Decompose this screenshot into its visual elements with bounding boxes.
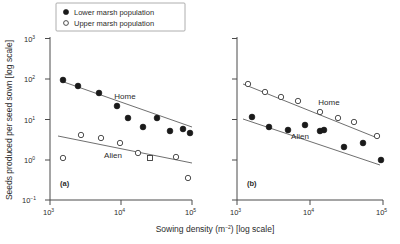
panel-a-xtick-10000: 104	[114, 207, 125, 217]
panel-b-label: (b)	[247, 179, 257, 188]
legend-marker-filled-circle-icon	[63, 9, 68, 14]
data-point	[245, 81, 250, 86]
data-point	[96, 90, 102, 96]
panel-b-xtick-100000: 105	[376, 207, 387, 217]
data-point	[60, 155, 65, 160]
data-point	[262, 89, 267, 94]
data-point	[78, 132, 83, 137]
data-point	[317, 109, 322, 114]
data-point	[335, 115, 340, 120]
panel-b-x-ticks	[237, 200, 383, 205]
data-point	[154, 115, 160, 121]
panel-a-home-label: Home	[114, 92, 136, 101]
legend-label-lower-marsh: Lower marsh population	[74, 8, 154, 17]
panel-a-ytick-1000: 103	[24, 34, 35, 44]
panel-a-ytick-100: 102	[24, 74, 35, 84]
legend-label-upper-marsh: Upper marsh population	[74, 19, 154, 28]
panel-b-home-series-points	[245, 81, 379, 138]
data-point	[295, 98, 300, 103]
figure-container: Lower marsh population Upper marsh popul…	[0, 0, 400, 244]
data-point	[60, 77, 66, 83]
data-point	[249, 114, 255, 120]
panel-a-ytick-0.1: 10−1	[22, 195, 36, 205]
panel-a-xtick-100000: 105	[185, 207, 196, 217]
x-axis-label-main: Sowing density (m	[156, 224, 225, 234]
panel-a-x-tick-labels: 103 104 105	[43, 207, 196, 217]
panel-b: 103 104 105	[230, 37, 387, 217]
data-point	[98, 135, 103, 140]
panel-b-home-label: Home	[318, 98, 340, 107]
data-point	[341, 144, 347, 150]
y-axis-label: Seeds produced per seed sown [log scale]	[4, 40, 14, 200]
y-axis-label-group: Seeds produced per seed sown [log scale]	[4, 40, 14, 200]
panel-a: 103 102 101 100 10−1 103 104 105	[22, 34, 196, 218]
data-point	[360, 140, 366, 146]
panel-a-alien-label: Alien	[104, 151, 122, 160]
data-point	[321, 127, 327, 133]
data-point	[135, 150, 140, 155]
data-point	[302, 122, 308, 128]
panel-b-alien-fit-line	[243, 119, 380, 165]
data-point	[266, 124, 272, 130]
data-point	[148, 156, 153, 161]
data-point	[125, 115, 131, 121]
panel-b-y-ticks	[232, 39, 237, 201]
panel-a-alien-series-points	[60, 132, 190, 180]
data-point	[187, 130, 193, 136]
data-point	[185, 175, 190, 180]
data-point	[278, 94, 283, 99]
panel-a-ytick-1: 100	[24, 155, 35, 165]
data-point	[75, 83, 81, 89]
data-point	[173, 154, 178, 159]
x-axis-label: Sowing density (m−2) [log scale]	[156, 224, 275, 234]
data-point	[167, 128, 173, 134]
x-axis-label-tail: ) [log scale]	[231, 224, 274, 234]
data-point	[140, 124, 146, 130]
two-panel-scatter-figure: Lower marsh population Upper marsh popul…	[0, 0, 400, 244]
panel-b-xtick-1000: 103	[230, 207, 241, 217]
panel-b-alien-label: Alien	[291, 132, 309, 141]
data-point	[114, 103, 120, 109]
panel-b-alien-series-points	[249, 114, 384, 163]
data-point	[378, 157, 384, 163]
legend-marker-open-circle-icon	[64, 21, 69, 26]
data-point	[285, 127, 291, 133]
panel-a-alien-fit-line	[58, 136, 192, 163]
panel-a-y-tick-labels: 103 102 101 100 10−1	[22, 34, 36, 206]
panel-a-home-series-points	[60, 77, 193, 136]
legend: Lower marsh population Upper marsh popul…	[56, 3, 185, 31]
panel-a-y-ticks	[45, 39, 50, 201]
panel-a-ytick-10: 101	[24, 115, 35, 125]
panel-b-x-tick-labels: 103 104 105	[230, 207, 387, 217]
panel-a-xtick-1000: 103	[43, 207, 54, 217]
panel-a-label: (a)	[60, 179, 70, 188]
data-point	[180, 126, 186, 132]
data-point	[351, 119, 356, 124]
panel-a-x-ticks	[50, 200, 192, 205]
data-point	[117, 140, 122, 145]
data-point	[374, 133, 379, 138]
panel-b-xtick-10000: 104	[303, 207, 314, 217]
